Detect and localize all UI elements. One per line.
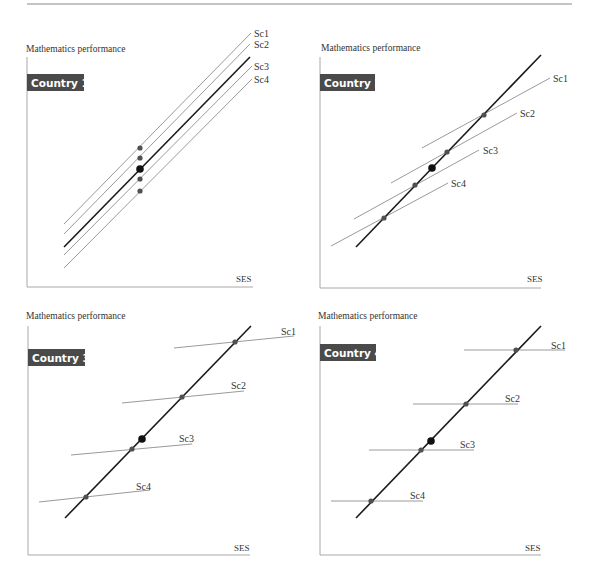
school-line-sc4 <box>331 183 448 246</box>
school-mean-dot <box>444 149 449 154</box>
x-axis-label: SES <box>525 543 541 553</box>
country-badge: Country 4 <box>320 344 382 361</box>
country-title: Country 4 <box>324 347 382 359</box>
country-mean-dot <box>136 165 144 173</box>
school-mean-dot <box>232 339 237 344</box>
school-line-sc4 <box>64 79 252 268</box>
panel-country-4: Mathematics performance Country 4 Sc1Sc2… <box>318 311 566 555</box>
school-mean-dot <box>137 188 142 193</box>
y-axis-label: Mathematics performance <box>321 43 420 53</box>
x-axis-label: SES <box>236 274 252 284</box>
school-mean-dot <box>481 112 486 117</box>
school-label-sc4: Sc4 <box>254 74 269 85</box>
school-label-sc1: Sc1 <box>254 28 269 39</box>
school-mean-dot <box>137 145 142 150</box>
school-line-sc2 <box>391 113 517 183</box>
y-axis-label: Mathematics performance <box>26 311 125 321</box>
school-label-sc1: Sc1 <box>551 340 566 351</box>
school-mean-dot <box>83 494 88 499</box>
school-label-sc3: Sc3 <box>483 145 498 156</box>
school-mean-dot <box>463 401 468 406</box>
country-badge: Country 3 <box>28 349 90 366</box>
school-label-sc4: Sc4 <box>451 178 466 189</box>
country-title: Country 2 <box>324 77 382 89</box>
school-label-sc3: Sc3 <box>179 433 194 444</box>
school-line-sc2 <box>64 44 250 234</box>
school-label-sc3: Sc3 <box>254 61 269 72</box>
school-mean-dot <box>129 446 134 451</box>
school-mean-dot <box>513 347 518 352</box>
x-axis-label: SES <box>234 543 250 553</box>
y-axis-label: Mathematics performance <box>318 311 417 321</box>
school-line-sc4 <box>39 490 150 502</box>
country-mean-dot <box>138 435 146 443</box>
country-badge: Country 2 <box>320 74 382 91</box>
school-mean-dot <box>412 182 417 187</box>
country-title: Country 1 <box>31 77 89 89</box>
school-mean-dot <box>418 447 423 452</box>
country-badge: Country 1 <box>27 74 89 91</box>
school-lines: Sc1Sc2Sc3Sc4 <box>331 340 566 501</box>
school-mean-dot <box>368 498 373 503</box>
panel-country-2: Mathematics performance Country 2 Sc1Sc2… <box>320 43 568 288</box>
school-line-sc1 <box>64 33 251 224</box>
school-label-sc2: Sc2 <box>505 393 520 404</box>
school-label-sc1: Sc1 <box>281 326 296 337</box>
x-axis-label: SES <box>527 274 543 284</box>
school-line-sc3 <box>64 66 252 255</box>
axes <box>320 57 541 288</box>
four-country-ses-diagram: Mathematics performance Country 1 Sc1Sc2… <box>0 0 593 574</box>
country-title: Country 3 <box>32 352 90 364</box>
school-mean-dot <box>137 155 142 160</box>
school-label-sc4: Sc4 <box>136 481 151 492</box>
school-mean-dot <box>381 215 386 220</box>
school-label-sc2: Sc2 <box>254 39 269 50</box>
school-label-sc2: Sc2 <box>231 380 246 391</box>
school-mean-dot <box>137 176 142 181</box>
overall-gradient-line <box>65 326 251 518</box>
school-mean-dot <box>179 394 184 399</box>
overall-gradient-line <box>64 57 250 247</box>
school-lines: Sc1Sc2Sc3Sc4 <box>331 73 568 246</box>
y-axis-label: Mathematics performance <box>26 44 125 54</box>
school-label-sc3: Sc3 <box>460 439 475 450</box>
school-lines: Sc1Sc2Sc3Sc4 <box>64 28 269 268</box>
panel-country-1: Mathematics performance Country 1 Sc1Sc2… <box>26 28 269 287</box>
country-mean-dot <box>428 164 436 172</box>
overall-gradient-line <box>356 326 541 518</box>
school-label-sc2: Sc2 <box>520 108 535 119</box>
school-label-sc1: Sc1 <box>553 73 568 84</box>
panel-country-3: Mathematics performance Country 3 Sc1Sc2… <box>26 311 296 555</box>
school-dots <box>368 347 518 503</box>
school-label-sc4: Sc4 <box>410 490 425 501</box>
figure: Mathematics performance Country 1 Sc1Sc2… <box>0 0 593 574</box>
country-mean-dot <box>427 437 435 445</box>
